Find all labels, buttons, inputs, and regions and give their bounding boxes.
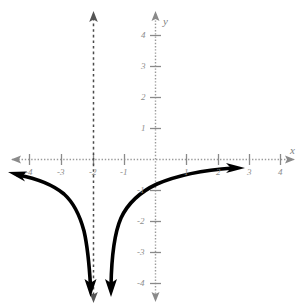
x-tick-label-neg-2: -2 [89, 168, 97, 177]
y-tick-label-neg-2: -2 [137, 217, 145, 226]
y-tick-label-neg-4: -4 [137, 279, 145, 288]
x-axis-label: x [290, 145, 295, 156]
x-tick-label-pos-1: 1 [184, 168, 189, 177]
y-axis-label: y [163, 16, 168, 27]
y-tick-label-neg-1: -1 [137, 186, 145, 195]
y-tick-label-neg-3: -3 [137, 248, 145, 257]
curve-left-branch [8, 172, 97, 298]
curve-right-branch [105, 163, 245, 297]
y-axis-top-arrowhead [152, 11, 160, 21]
x-axis [11, 154, 295, 165]
graph-figure: -4 -3 -2 -1 1 2 3 4 4 3 2 1 -1 -2 -3 -4 … [0, 0, 306, 308]
x-tick-label-neg-4: -4 [25, 168, 33, 177]
x-tick-label-neg-1: -1 [120, 168, 128, 177]
y-axis [150, 11, 161, 302]
y-tick-label-pos-2: 2 [141, 93, 146, 102]
left-branch-path [18, 175, 91, 286]
x-tick-label-pos-3: 3 [247, 168, 252, 177]
x-tick-label-pos-4: 4 [278, 168, 283, 177]
y-tick-label-pos-1: 1 [141, 124, 146, 133]
y-tick-label-pos-4: 4 [141, 31, 146, 40]
x-tick-label-pos-2: 2 [216, 168, 221, 177]
y-tick-label-pos-3: 3 [141, 62, 146, 71]
coordinate-plot [0, 0, 306, 308]
x-axis-right-arrowhead [285, 156, 295, 164]
right-branch-path [111, 168, 233, 286]
x-tick-label-neg-3: -3 [57, 168, 65, 177]
